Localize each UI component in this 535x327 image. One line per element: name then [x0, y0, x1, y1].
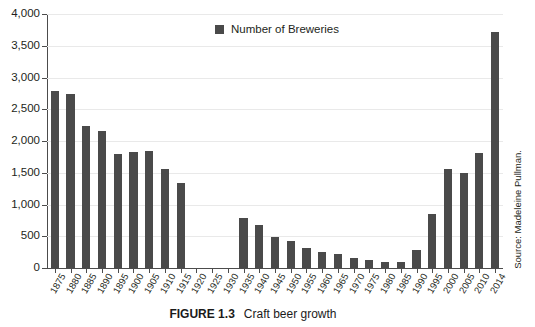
x-axis-tick-label: 1905: [143, 272, 162, 295]
y-axis-tick-label: 500: [0, 231, 40, 243]
x-axis-tick-label: 1880: [64, 272, 83, 295]
bar: [302, 248, 310, 268]
y-axis-tick-label: 4,000: [0, 8, 40, 20]
chart-legend: Number of Breweries: [215, 24, 339, 36]
bar: [98, 131, 106, 268]
bar: [255, 225, 263, 268]
bar: [365, 260, 373, 268]
x-axis-tick-label: 2005: [457, 272, 476, 295]
bars-group: [47, 14, 503, 268]
figure-caption-number: FIGURE 1.3: [169, 307, 234, 321]
bar: [334, 254, 342, 268]
legend-swatch-breweries: [215, 25, 224, 34]
x-axis-labels: 1875188018851890189519001905191019151920…: [47, 272, 517, 312]
bar: [412, 250, 420, 268]
bar: [397, 262, 405, 268]
bar: [271, 237, 279, 268]
x-axis-tick-label: 1930: [221, 272, 240, 295]
x-axis-tick-label: 1950: [284, 272, 303, 295]
bar: [145, 151, 153, 268]
y-axis-tick-label: 3,500: [0, 40, 40, 52]
x-axis-tick-label: 1925: [206, 272, 225, 295]
bar: [491, 32, 499, 268]
y-axis-tick-label: 1,500: [0, 167, 40, 179]
x-axis-tick-label: 1985: [394, 272, 413, 295]
bar: [66, 94, 74, 268]
x-axis-tick-label: 1895: [111, 272, 130, 295]
bar: [51, 91, 59, 268]
figure-caption-title: Craft beer growth: [244, 307, 337, 321]
x-axis-tick-label: 1935: [237, 272, 256, 295]
y-axis-tick-label: 3,000: [0, 72, 40, 84]
x-axis-tick-label: 1970: [347, 272, 366, 295]
figure-caption: FIGURE 1.3Craft beer growth: [0, 308, 506, 320]
y-axis-labels: 05001,0001,5002,0002,5003,0003,5004,000: [0, 0, 40, 300]
bar: [318, 252, 326, 269]
bar: [381, 262, 389, 268]
x-axis-tick-label: 1890: [95, 272, 114, 295]
x-axis-tick-label: 1875: [48, 272, 67, 295]
y-axis-tick-label: 1,000: [0, 199, 40, 211]
x-axis-tick-label: 1915: [174, 272, 193, 295]
y-axis-tick-label: 0: [0, 262, 40, 274]
bar: [475, 153, 483, 268]
y-axis-tick-label: 2,500: [0, 104, 40, 116]
bar: [129, 152, 137, 268]
bar: [114, 154, 122, 268]
bar: [287, 241, 295, 268]
bar: [177, 183, 185, 268]
bar: [161, 169, 169, 268]
y-axis-tick-label: 2,000: [0, 135, 40, 147]
x-axis-tick-label: 2014: [489, 272, 508, 295]
x-axis-tick-label: 1945: [268, 272, 287, 295]
plot-area: [47, 14, 503, 268]
x-axis-tick-label: 1965: [331, 272, 350, 295]
x-axis-tick-label: 1990: [410, 272, 429, 295]
bar: [460, 173, 468, 268]
x-axis-tick-label: 1910: [158, 272, 177, 295]
bar-chart: 05001,0001,5002,0002,5003,0003,5004,000 …: [0, 0, 506, 300]
bar: [82, 126, 90, 268]
x-axis-tick-label: 2000: [441, 272, 460, 295]
bar: [428, 214, 436, 268]
bar: [444, 169, 452, 268]
x-axis-tick-label: 1980: [378, 272, 397, 295]
figure-container: 05001,0001,5002,0002,5003,0003,5004,000 …: [0, 0, 535, 327]
x-axis-tick-label: 1960: [316, 272, 335, 295]
source-note: Source: Madeleine Pullman.: [513, 150, 523, 269]
bar: [239, 218, 247, 268]
bar: [350, 258, 358, 268]
legend-label-breweries: Number of Breweries: [231, 24, 339, 36]
